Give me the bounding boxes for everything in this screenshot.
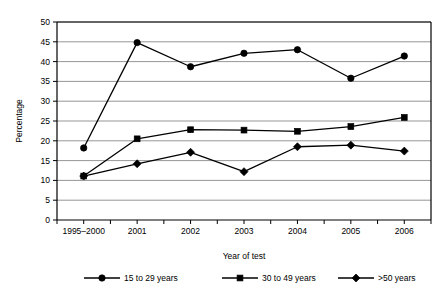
legend-label: 15 to 29 years <box>124 273 178 283</box>
x-tick-label: 2001 <box>128 226 147 236</box>
legend-label: 30 to 49 years <box>262 273 316 283</box>
data-point <box>348 75 354 81</box>
y-tick-label: 30 <box>41 96 51 106</box>
data-point <box>241 127 247 133</box>
y-tick-label: 0 <box>45 215 50 225</box>
x-tick-label: 2003 <box>235 226 254 236</box>
x-axis-title: Year of test <box>223 251 266 261</box>
legend-marker <box>99 275 105 281</box>
legend-label: >50 years <box>378 273 416 283</box>
x-tick-label: 2002 <box>181 226 200 236</box>
data-point <box>401 53 407 59</box>
y-tick-label: 20 <box>41 136 51 146</box>
data-point <box>188 127 194 133</box>
y-tick-label: 5 <box>45 195 50 205</box>
x-tick-label: 2006 <box>395 226 414 236</box>
x-tick-label: 2004 <box>288 226 307 236</box>
data-point <box>295 128 301 134</box>
data-point <box>187 64 193 70</box>
data-point <box>241 50 247 56</box>
y-tick-label: 35 <box>41 76 51 86</box>
y-tick-label: 50 <box>41 17 51 27</box>
y-tick-label: 10 <box>41 175 51 185</box>
y-tick-label: 40 <box>41 57 51 67</box>
chart-container: 05101520253035404550 1995–20002001200220… <box>0 0 447 300</box>
y-axis-title: Percentage <box>14 99 24 143</box>
y-tick-label: 45 <box>41 37 51 47</box>
x-tick-label: 1995–2000 <box>62 226 105 236</box>
data-point <box>401 115 407 121</box>
data-point <box>134 136 140 142</box>
data-point <box>134 39 140 45</box>
data-point <box>348 124 354 130</box>
y-tick-label: 15 <box>41 156 51 166</box>
line-chart: 05101520253035404550 1995–20002001200220… <box>0 0 447 300</box>
legend-marker <box>237 275 243 281</box>
data-point <box>81 145 87 151</box>
x-tick-label: 2005 <box>341 226 360 236</box>
y-tick-label: 25 <box>41 116 51 126</box>
data-point <box>294 47 300 53</box>
